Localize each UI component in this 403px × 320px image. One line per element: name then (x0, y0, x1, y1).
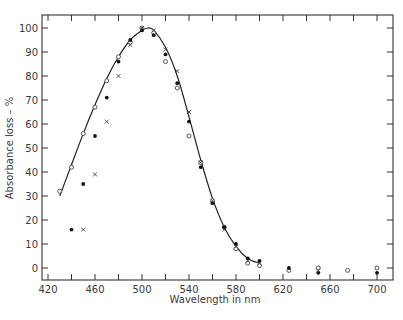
open-circle-point (58, 189, 62, 193)
data-points (58, 26, 379, 275)
y-tick-label: 20 (25, 215, 38, 226)
open-circle-point (70, 165, 74, 169)
y-tick-label: 70 (25, 95, 38, 106)
x-tick-label: 500 (132, 284, 151, 295)
plot-frame (42, 15, 393, 280)
open-circle-point (187, 134, 191, 138)
y-tick-labels: 0102030405060708090100 (19, 23, 38, 274)
y-tick-label: 0 (32, 263, 38, 274)
y-axis-label: Absorbance loss – % (4, 97, 15, 199)
open-circle-point (164, 60, 168, 64)
cross-point (81, 228, 85, 232)
open-circle-point (175, 86, 179, 90)
x-axis-label: Wavelength in nm (170, 294, 261, 305)
filled-dot-point (375, 271, 379, 275)
x-tick-label: 420 (38, 284, 57, 295)
axis-ticks (42, 15, 393, 280)
y-tick-label: 90 (25, 47, 38, 58)
y-tick-label: 80 (25, 71, 38, 82)
x-tick-label: 660 (320, 284, 339, 295)
filled-dot-point (117, 60, 121, 64)
y-tick-label: 30 (25, 191, 38, 202)
filled-dot-point (70, 228, 74, 232)
y-tick-label: 10 (25, 239, 38, 250)
filled-dot-point (105, 96, 109, 100)
absorbance-chart: 420460500540580620660700 010203040506070… (0, 0, 403, 320)
filled-dot-point (199, 165, 203, 169)
y-tick-label: 100 (19, 23, 38, 34)
filled-dot-point (164, 53, 168, 57)
filled-dot-point (287, 266, 291, 270)
filled-dot-point (128, 38, 132, 42)
y-tick-label: 60 (25, 119, 38, 130)
filled-dot-point (93, 134, 97, 138)
x-tick-label: 620 (273, 284, 292, 295)
y-tick-label: 50 (25, 143, 38, 154)
fitted-curve (60, 28, 260, 263)
y-tick-label: 40 (25, 167, 38, 178)
open-circle-point (81, 132, 85, 136)
cross-point (93, 172, 97, 176)
x-tick-label: 700 (367, 284, 386, 295)
open-circle-point (105, 79, 109, 83)
open-circle-point (346, 268, 350, 272)
open-circle-point (375, 266, 379, 270)
filled-dot-point (152, 33, 156, 37)
filled-dot-point (81, 182, 85, 186)
open-circle-point (117, 55, 121, 59)
open-circle-point (93, 105, 97, 109)
cross-point (105, 120, 109, 124)
filled-dot-point (175, 81, 179, 85)
filled-dot-point (187, 120, 191, 124)
cross-point (117, 74, 121, 78)
x-tick-label: 460 (85, 284, 104, 295)
